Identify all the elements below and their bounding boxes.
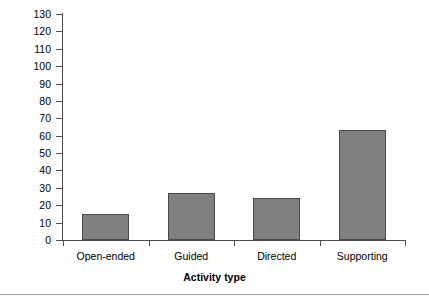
bar <box>339 130 386 240</box>
y-axis-tick <box>56 136 62 137</box>
x-axis-category-label: Guided <box>174 251 208 262</box>
y-axis-tick <box>56 170 62 171</box>
y-axis-tick-label: 60 <box>7 130 51 141</box>
y-axis-tick-label: 100 <box>7 61 51 72</box>
y-axis-tick-label: 50 <box>7 148 51 159</box>
bottom-rule <box>0 294 429 295</box>
bar <box>82 214 129 240</box>
y-axis-tick-label: 110 <box>7 44 51 55</box>
y-axis-tick <box>56 153 62 154</box>
x-axis-title: Activity type <box>0 272 429 283</box>
x-axis-tick <box>63 241 64 246</box>
y-axis-tick-label: 30 <box>7 183 51 194</box>
y-axis-tick <box>56 240 62 241</box>
y-axis-tick <box>56 118 62 119</box>
bar <box>168 193 215 240</box>
y-axis-tick <box>56 101 62 102</box>
y-axis-tick-label: 90 <box>7 78 51 89</box>
x-axis-category-label: Directed <box>257 251 296 262</box>
x-axis-category-label: Open-ended <box>77 251 135 262</box>
x-axis-tick <box>234 241 235 246</box>
x-axis-tick <box>149 241 150 246</box>
y-axis-tick-label: 20 <box>7 200 51 211</box>
plot-area <box>63 14 405 240</box>
bar <box>253 198 300 240</box>
y-axis-tick <box>56 205 62 206</box>
y-axis-tick-label: 10 <box>7 217 51 228</box>
y-axis-tick <box>56 31 62 32</box>
y-axis-tick-label: 0 <box>7 235 51 246</box>
y-axis-tick <box>56 49 62 50</box>
x-axis-tick <box>405 241 406 246</box>
y-axis-tick <box>56 84 62 85</box>
y-axis-tick-label: 80 <box>7 96 51 107</box>
bar-chart-figure: 0102030405060708090100110120130 Open-end… <box>0 0 429 304</box>
y-axis-tick-label: 120 <box>7 26 51 37</box>
y-axis-tick-label: 40 <box>7 165 51 176</box>
y-axis-tick <box>56 188 62 189</box>
y-axis-tick-label: 70 <box>7 113 51 124</box>
x-axis-tick <box>320 241 321 246</box>
y-axis-tick <box>56 14 62 15</box>
y-axis-tick <box>56 66 62 67</box>
y-axis-tick <box>56 223 62 224</box>
y-axis-tick-label: 130 <box>7 9 51 20</box>
x-axis-category-label: Supporting <box>337 251 388 262</box>
